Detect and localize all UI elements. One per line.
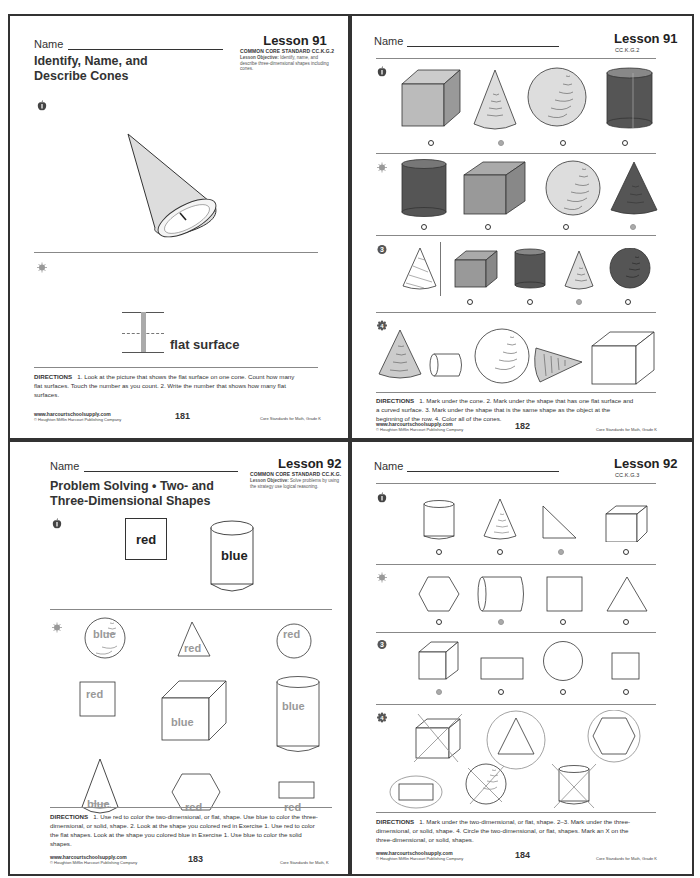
answer-bubble-marked[interactable]: [558, 549, 564, 555]
title-line-1: Identify, Name, and: [34, 54, 148, 69]
footer-right-text: Core Standards for Math, Grade K: [596, 856, 657, 861]
row-2-sun-icon: [377, 162, 387, 173]
triangle-circled: [487, 711, 545, 769]
directions: DIRECTIONS 1. Look at the picture that s…: [34, 372, 304, 399]
lesson-objective: Lesson Objective: Solve problems by usin…: [250, 478, 345, 489]
footer-right-text: Core Standards for Math, Grade K: [260, 416, 321, 421]
footer-right-text: Core Standards for Math, Grade K: [596, 427, 657, 432]
cone-shape: [474, 70, 516, 129]
section-divider: [376, 235, 656, 236]
exercise-1-apple-icon: [52, 518, 62, 529]
answer-bubble-marked[interactable]: [436, 689, 442, 695]
title-line-2: Three-Dimensional Shapes: [50, 494, 214, 509]
row-3-shapes: [418, 640, 658, 684]
answer-bubble[interactable]: [436, 549, 442, 555]
cone-with-flat-surface-illustration: [120, 128, 230, 238]
name-label: Name: [50, 460, 79, 472]
footer-right-text: Core Standards for Math, K: [280, 860, 329, 865]
row-3-number-icon: [377, 639, 387, 650]
answer-bubble[interactable]: [560, 619, 566, 625]
answer-bubble[interactable]: [622, 140, 628, 146]
page-number: 184: [515, 850, 530, 860]
flat-surface-label: flat surface: [170, 337, 239, 352]
answer-bubble[interactable]: [498, 689, 504, 695]
name-line: [407, 471, 559, 472]
hexagon-shape: [419, 577, 459, 611]
worksheet-page-182: Name Lesson 91 CC.K.G.2: [350, 14, 694, 440]
directions-label: DIRECTIONS: [34, 373, 72, 380]
row-2-sun-icon: [377, 572, 387, 583]
answer-bubble-marked[interactable]: [630, 224, 636, 230]
page-number: 183: [188, 854, 203, 864]
sphere-shape: [546, 161, 600, 215]
section-divider: [376, 632, 656, 633]
cone-shape-sideways: [535, 348, 582, 382]
answer-bubble[interactable]: [560, 140, 566, 146]
cube-shape: [455, 251, 497, 287]
answer-bubble[interactable]: [623, 549, 629, 555]
answer-bubble-marked[interactable]: [498, 619, 504, 625]
objective-label: Lesson Objective:: [250, 478, 289, 483]
row-1-apple-icon: [377, 66, 387, 77]
answer-bubble[interactable]: [467, 299, 473, 305]
rectangle-circled: [390, 776, 442, 808]
rectangle-shape: [481, 658, 523, 679]
title-line-1: Problem Solving • Two- and: [50, 479, 214, 494]
answer-bubble[interactable]: [623, 689, 629, 695]
row-3-number-icon: [377, 244, 387, 255]
row-4-shapes: [382, 710, 662, 810]
answer-bubble-marked[interactable]: [498, 140, 504, 146]
row-1-shapes: [398, 64, 668, 134]
square-shape[interactable]: red: [125, 518, 167, 560]
directions-divider: [376, 812, 656, 813]
directions-label: DIRECTIONS: [376, 397, 414, 404]
directions-label: DIRECTIONS: [50, 813, 88, 820]
triangle-shape: [607, 577, 647, 611]
cube-x-marked: [414, 714, 462, 762]
color-label: red: [283, 628, 300, 640]
section-divider: [376, 704, 656, 705]
standard-code: CC.K.G.3: [615, 472, 639, 478]
answer-bubble[interactable]: [428, 140, 434, 146]
answer-bubble[interactable]: [436, 619, 442, 625]
cylinder-shape: [607, 68, 652, 128]
footer-copyright: © Houghton Mifflin Harcourt Publishing C…: [376, 427, 463, 432]
cube-shape: [402, 70, 460, 126]
section-divider: [376, 312, 656, 313]
answer-bubble[interactable]: [421, 224, 427, 230]
directions-text: 1. Look at the picture that shows the fl…: [34, 373, 294, 398]
cone-shape: [484, 499, 516, 539]
directions-divider: [34, 367, 318, 368]
name-line: [84, 471, 238, 472]
page-title: Problem Solving • Two- and Three-Dimensi…: [50, 479, 214, 509]
cylinder-shape: [515, 249, 545, 288]
lesson-number: Lesson 92: [614, 456, 678, 471]
name-label: Name: [374, 460, 403, 472]
circle-shape: [544, 642, 583, 681]
answer-bubble[interactable]: [623, 619, 629, 625]
exercise-2-sun-icon: [52, 622, 62, 633]
lesson-objective: Lesson Objective: Identify, name, and de…: [240, 55, 330, 72]
answer-bubble[interactable]: [560, 689, 566, 695]
color-label: blue: [171, 716, 194, 728]
color-label: red: [86, 688, 103, 700]
answer-bubble[interactable]: [563, 224, 569, 230]
answer-bubble-marked[interactable]: [576, 299, 582, 305]
title-line-2: Describe Cones: [34, 69, 148, 84]
answer-bubble[interactable]: [527, 299, 533, 305]
cube-shape: [162, 681, 226, 740]
color-label: blue: [282, 700, 305, 712]
name-label: Name: [34, 38, 63, 50]
worksheet-page-184: Name Lesson 92 CC.K.G.3: [350, 440, 694, 876]
directions-text: 1. Mark under the cone. 2. Mark under th…: [376, 397, 633, 422]
section-divider: [50, 609, 332, 610]
answer-bubble[interactable]: [485, 224, 491, 230]
number-answer-stroke: [141, 312, 146, 352]
row-1-shapes: [418, 498, 658, 542]
square-shape: [547, 577, 582, 611]
answer-bubble[interactable]: [497, 549, 503, 555]
answer-bubble[interactable]: [625, 299, 631, 305]
cone-shape: [379, 330, 421, 378]
directions-label: DIRECTIONS: [376, 818, 414, 825]
directions-divider: [376, 392, 656, 393]
